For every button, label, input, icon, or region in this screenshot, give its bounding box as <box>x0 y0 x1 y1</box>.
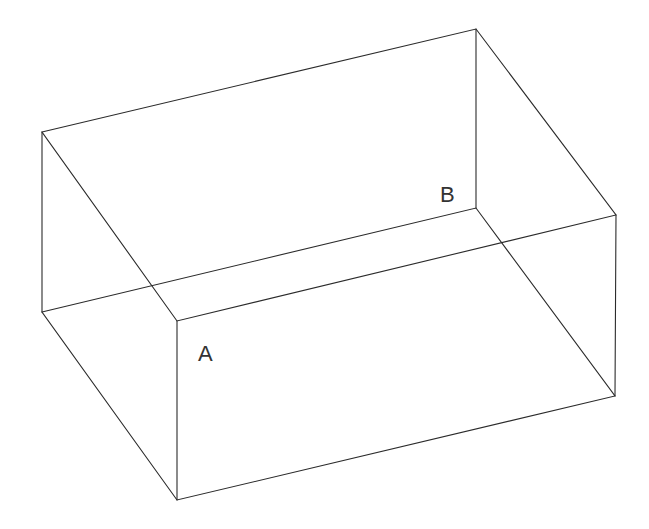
label-b: B <box>440 182 455 207</box>
vertical-edge-right-front <box>615 215 616 396</box>
label-a: A <box>198 341 213 366</box>
top-face <box>42 29 616 321</box>
box-edges <box>42 29 616 500</box>
box-diagram: A B <box>0 0 649 529</box>
